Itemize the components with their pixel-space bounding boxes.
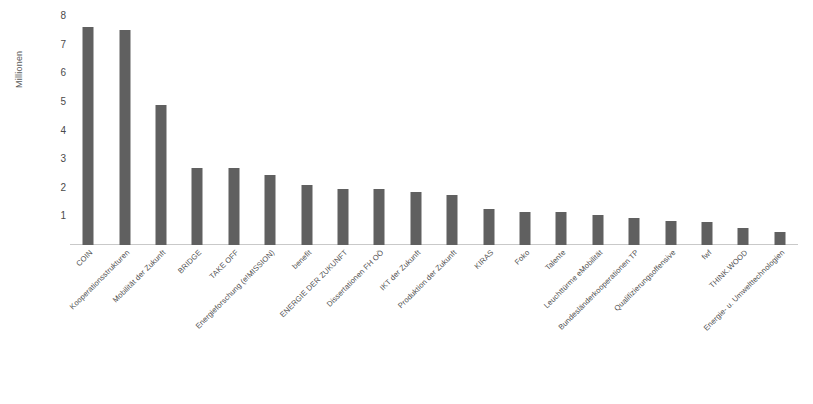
bar[interactable]: [265, 175, 276, 245]
bar-slot: [252, 16, 288, 245]
y-axis-tick-label: 4: [44, 126, 66, 136]
bar-slot: [361, 16, 397, 245]
bar[interactable]: [337, 189, 348, 245]
bar-slot: [106, 16, 142, 245]
bar-slot: [143, 16, 179, 245]
bar[interactable]: [410, 192, 421, 245]
y-axis-title: Millionen: [14, 18, 28, 88]
bar-slot: [70, 16, 106, 245]
bar-slot: [689, 16, 725, 245]
y-axis-tick-label: 5: [44, 97, 66, 107]
y-axis-tick-labels: 12345678: [44, 0, 66, 404]
y-axis-tick-label: 1: [44, 211, 66, 221]
bar[interactable]: [483, 209, 494, 245]
bar[interactable]: [774, 232, 785, 245]
bar[interactable]: [592, 215, 603, 245]
y-axis-tick-label: 6: [44, 68, 66, 78]
bar-slot: [179, 16, 215, 245]
y-axis-tick-label: 2: [44, 183, 66, 193]
bar[interactable]: [738, 228, 749, 245]
bar[interactable]: [119, 30, 130, 245]
bar-slot: [434, 16, 470, 245]
bar-slot: [325, 16, 361, 245]
bar[interactable]: [447, 195, 458, 245]
bar[interactable]: [155, 105, 166, 245]
bar[interactable]: [192, 168, 203, 245]
bar-slot: [507, 16, 543, 245]
bar[interactable]: [629, 218, 640, 245]
bar-slot: [652, 16, 688, 245]
y-axis-tick-label: 7: [44, 40, 66, 50]
bar-slot: [398, 16, 434, 245]
bar[interactable]: [556, 212, 567, 245]
bar[interactable]: [374, 189, 385, 245]
bar[interactable]: [665, 221, 676, 245]
bar[interactable]: [519, 212, 530, 245]
bar[interactable]: [701, 222, 712, 245]
bar[interactable]: [228, 168, 239, 245]
bar-slot: [543, 16, 579, 245]
bar-slot: [470, 16, 506, 245]
y-axis-tick-label: 8: [44, 11, 66, 21]
bar-slot: [288, 16, 324, 245]
bar-slot: [580, 16, 616, 245]
bar-chart: Millionen 12345678 COINKooperationsstruk…: [0, 0, 813, 404]
bar-slot: [616, 16, 652, 245]
x-axis-category-labels: COINKooperationsstrukturenMobilität der …: [70, 248, 810, 398]
bar[interactable]: [301, 185, 312, 245]
bar-slot: [762, 16, 798, 245]
y-axis-tick-label: 3: [44, 154, 66, 164]
plot-area: [70, 16, 798, 245]
bar-slot: [216, 16, 252, 245]
bar[interactable]: [83, 27, 94, 245]
bar-slot: [725, 16, 761, 245]
